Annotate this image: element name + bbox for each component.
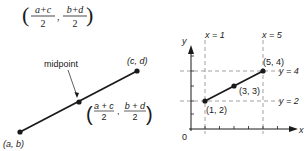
y-axis-label: y <box>181 36 187 46</box>
top-denominator-left: 2 <box>41 18 46 29</box>
point-end-label: (c, d) <box>127 56 148 66</box>
left-paren: ( <box>86 103 93 125</box>
guide-label-x1: x = 1 <box>204 30 225 40</box>
x-axis-arrow-icon <box>289 126 298 132</box>
top-numerator-right: b+d <box>67 4 85 15</box>
top-denominator-right: 2 <box>73 18 78 29</box>
origin-label: 0 <box>182 132 187 142</box>
point-label-3-3: (3, 3) <box>239 86 260 96</box>
point-start-label: (a, b) <box>3 139 24 149</box>
left-paren: ( <box>22 2 29 27</box>
point-label-1-2: (1, 2) <box>206 105 227 115</box>
guide-label-y4: y = 4 <box>278 66 299 76</box>
midpoint-separator: , <box>117 106 120 116</box>
top-separator: , <box>57 11 60 22</box>
midpoint-denominator-right: 2 <box>132 112 137 122</box>
arrow-head-icon <box>75 92 80 98</box>
top-midpoint-formula: ( a+c 2 , b+d 2 ) <box>22 2 93 29</box>
x-axis-label: x <box>298 125 304 135</box>
midpoint-numerator-left: a + c <box>94 101 114 111</box>
midpoint-formula: ( a + c 2 , b + d 2 ) <box>86 101 153 125</box>
right-paren: ) <box>146 103 153 125</box>
midpoint-dot <box>76 99 81 104</box>
coordinate-plane: y x 0 x = 1 x = 5 y = 4 y = 2 (1, 2) (3,… <box>180 30 304 142</box>
guide-label-x5: x = 5 <box>261 30 283 40</box>
midpoint-callout-label: midpoint <box>44 59 79 69</box>
right-paren: ) <box>86 2 93 27</box>
endpoint-end-dot <box>134 68 139 73</box>
midpoint-numerator-right: b + d <box>125 101 146 111</box>
point-label-5-4: (5, 4) <box>263 57 284 67</box>
top-numerator-left: a+c <box>35 4 52 15</box>
point-1-2-dot <box>202 98 207 103</box>
callout-arrow-line <box>68 70 77 96</box>
y-axis-arrow-icon <box>188 45 194 54</box>
midpoint-figure: ( a+c 2 , b+d 2 ) (a, b) (c, d) midpoint… <box>0 0 307 151</box>
endpoint-start-dot <box>17 129 22 134</box>
left-segment-diagram: (a, b) (c, d) midpoint ( a + c 2 , b + d… <box>3 56 153 149</box>
midpoint-denominator-left: 2 <box>101 112 106 122</box>
guide-label-y2: y = 2 <box>278 96 299 106</box>
point-3-3-dot <box>231 83 236 88</box>
point-5-4-dot <box>260 68 265 73</box>
